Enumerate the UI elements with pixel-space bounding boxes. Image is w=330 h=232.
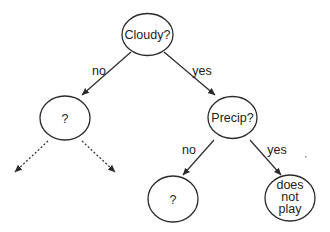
node-bottom-unknown-label: ? — [170, 193, 177, 207]
node-precip: Precip? — [208, 97, 257, 139]
node-does-not-play: does not play — [265, 175, 315, 221]
decision-tree-diagram: no yes no yes Cloudy? ? Precip? ? does n… — [0, 0, 330, 232]
node-left-unknown-label: ? — [62, 112, 69, 126]
edge-label-cloudy-yes: yes — [192, 64, 211, 78]
edge-label-precip-no: no — [182, 143, 196, 157]
speck-artifact — [305, 156, 307, 158]
edge-label-cloudy-no: no — [92, 64, 106, 78]
node-cloudy: Cloudy? — [122, 14, 173, 56]
node-precip-label: Precip? — [211, 111, 253, 125]
node-does-not-play-line-3: play — [279, 202, 303, 216]
edge-left-unknown-dotted-right — [82, 141, 115, 172]
node-cloudy-label: Cloudy? — [125, 28, 171, 42]
edge-left-unknown-dotted-left — [15, 141, 48, 172]
node-left-unknown: ? — [40, 96, 90, 140]
edge-cloudy-no — [82, 52, 131, 95]
edge-label-precip-yes: yes — [267, 143, 286, 157]
node-bottom-unknown: ? — [148, 176, 198, 222]
